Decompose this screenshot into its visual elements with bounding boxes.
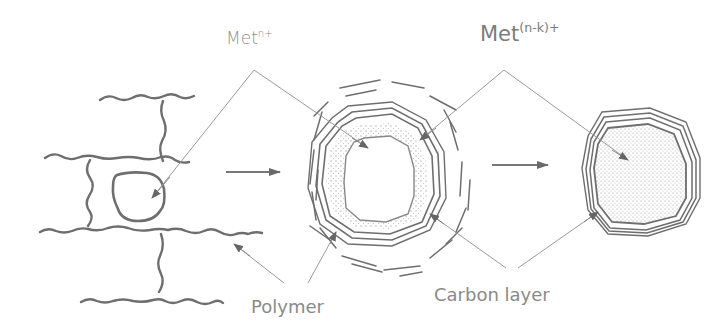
metal-ion-droplet bbox=[113, 172, 165, 221]
polymer-crosslink bbox=[160, 101, 165, 161]
label-met-nk: Met(n-k)+ bbox=[480, 20, 559, 46]
label-carbon-layer: Carbon layer bbox=[434, 284, 550, 305]
polymer-crosslink bbox=[87, 160, 93, 226]
polymer-network bbox=[40, 94, 262, 304]
label-met-n: Metn+ bbox=[226, 28, 273, 48]
polymer-chain bbox=[100, 94, 194, 100]
carbon-coated-particle-intermediate bbox=[308, 80, 470, 276]
metal-core bbox=[344, 136, 414, 222]
polymer-chain bbox=[81, 299, 223, 304]
label-met-nk-base: Met bbox=[480, 22, 519, 46]
diagram-canvas bbox=[0, 0, 728, 331]
label-met-n-charge: n+ bbox=[258, 28, 273, 39]
metal-core-dotted bbox=[594, 124, 686, 224]
polymer-chain bbox=[45, 154, 189, 162]
label-met-n-base: Met bbox=[226, 28, 258, 48]
polymer-chain bbox=[40, 227, 262, 236]
polymer-crosslink bbox=[158, 234, 163, 292]
carbon-coated-particle-final bbox=[582, 108, 700, 236]
label-met-nk-charge: (n-k)+ bbox=[519, 20, 559, 35]
label-polymer: Polymer bbox=[251, 296, 324, 317]
